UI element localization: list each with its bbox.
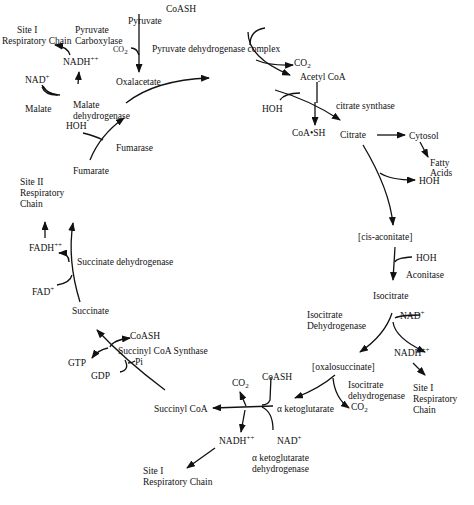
site2-label-1: Site II <box>20 177 43 188</box>
nadh-superscript: ++ <box>90 55 98 63</box>
site1-top-label-2: Respiratory Chain <box>2 36 71 47</box>
isocitrate-dehydrogenase-lower-2: dehydrogenase <box>348 391 405 402</box>
pyruvate-carboxylase-label-1: Pyruvate <box>75 25 109 36</box>
co2-subscript: 2 <box>364 406 368 414</box>
acetyl-coa-label: Acetyl CoA <box>300 72 346 83</box>
coash-akg-label: CoASH <box>262 372 292 383</box>
malate-dehydrogenase-label-1: Malate <box>73 100 99 111</box>
hoh-aconitase-label: HOH <box>416 253 437 264</box>
nad-isocitrate-label: NAD+ <box>400 311 425 322</box>
oxalacetate-label: Oxalacetate <box>116 77 161 88</box>
fadh-superscript: ++ <box>54 241 62 249</box>
site2-label-2: Respiratory <box>20 188 64 199</box>
succinyl-coa-label: Succinyl CoA <box>154 404 208 415</box>
citrate-synthase-label: citrate synthase <box>336 101 395 112</box>
fadh-label: FADH++ <box>29 243 62 254</box>
co2-pyruvate-carboxylase: CO2 <box>113 44 128 55</box>
fadh-text: FADH <box>29 243 54 253</box>
co2-subscript: 2 <box>307 62 311 70</box>
co2-subscript: 2 <box>245 382 249 390</box>
succinate-label: Succinate <box>72 306 109 317</box>
pyruvate-label: Pyruvate <box>128 16 162 27</box>
aconitase-label: Aconitase <box>406 270 444 281</box>
akg-dehydrogenase-label-2: dehydrogenase <box>252 464 309 475</box>
nadh-malate-label: NADH++ <box>63 57 98 68</box>
co2-text: CO <box>351 402 364 412</box>
succinate-dehydrogenase-label: Succinate dehydrogenase <box>77 257 173 268</box>
nad-superscript: + <box>46 73 50 81</box>
citrate-label: Citrate <box>340 130 366 141</box>
co2-text: CO <box>113 45 124 54</box>
nadh-superscript: ++ <box>246 434 254 442</box>
pi-label: Pi <box>135 357 143 368</box>
nad-superscript: + <box>298 434 302 442</box>
site1-right-label-3: Chain <box>413 405 436 416</box>
site1-right-label-1: Site I <box>413 383 433 394</box>
nadh-akg-label: NADH++ <box>219 436 254 447</box>
akg-dehydrogenase-label-1: α ketoglutarate <box>252 453 309 464</box>
hoh-citrate-synthase-label: HOH <box>262 104 283 115</box>
coa-sh-label: CoA•SH <box>292 128 325 139</box>
nad-akg-label: NAD+ <box>277 436 302 447</box>
co2-akg-label: CO2 <box>232 378 249 389</box>
nad-text: NAD <box>25 75 46 85</box>
co2-pdh-label: CO2 <box>294 58 311 69</box>
citric-acid-cycle-diagram: Pyruvate CoASH Pyruvate Carboxylase Site… <box>0 0 474 505</box>
nadh-superscript: ++ <box>421 346 429 354</box>
pdh-complex-label: Pyruvate dehydrogenase complex <box>152 44 280 55</box>
hoh-citrate-label: HOH <box>419 176 440 187</box>
fad-label: FAD+ <box>32 287 54 298</box>
fumarase-label: Fumarase <box>116 143 153 154</box>
co2-oxalosuccinate-label: CO2 <box>351 402 368 413</box>
site1-bottom-label-1: Site I <box>143 466 163 477</box>
co2-subscript: 2 <box>124 48 128 56</box>
isocitrate-label: Isocitrate <box>373 291 408 302</box>
fad-text: FAD <box>32 287 50 297</box>
cis-aconitate-label: [cis-aconitate] <box>358 232 412 243</box>
coash-succinyl-label: CoASH <box>130 331 160 342</box>
co2-text: CO <box>294 58 307 68</box>
coash-label: CoASH <box>166 4 196 15</box>
fumarate-label: Fumarate <box>73 166 109 177</box>
malate-label: Malate <box>25 104 51 115</box>
oxalosuccinate-label: [oxalosuccinate] <box>312 362 375 373</box>
gtp-label: GTP <box>68 358 86 369</box>
co2-text: CO <box>232 378 245 388</box>
nadh-isocitrate-label: NADH++ <box>394 348 429 359</box>
succinyl-coa-synthase-label: Succinyl CoA Synthase <box>118 346 208 357</box>
hoh-fumarase-label: HOH <box>66 121 87 132</box>
cytosol-label: Cytosol <box>409 131 439 142</box>
fad-superscript: + <box>50 285 54 293</box>
nad-text: NAD <box>400 311 421 321</box>
nadh-text: NADH <box>394 348 421 358</box>
nadh-text: NADH <box>63 57 90 67</box>
site1-top-label-1: Site I <box>17 25 37 36</box>
nadh-text: NADH <box>219 436 246 446</box>
nad-malate-label: NAD+ <box>25 75 50 86</box>
site2-label-3: Chain <box>20 199 43 210</box>
pathway-arrows <box>0 0 474 505</box>
site1-bottom-label-2: Respiratory Chain <box>143 477 212 488</box>
alpha-ketoglutarate-label: α ketoglutarate <box>277 404 334 415</box>
gdp-label: GDP <box>91 371 110 382</box>
nad-superscript: + <box>421 309 425 317</box>
site1-right-label-2: Respiratory <box>413 394 457 405</box>
isocitrate-dehydrogenase-lower-1: Isocitrate <box>348 380 383 391</box>
isocitrate-dehydrogenase-upper-1: Isocitrate <box>307 310 342 321</box>
nad-text: NAD <box>277 436 298 446</box>
isocitrate-dehydrogenase-upper-2: Dehydrogenase <box>307 321 366 332</box>
